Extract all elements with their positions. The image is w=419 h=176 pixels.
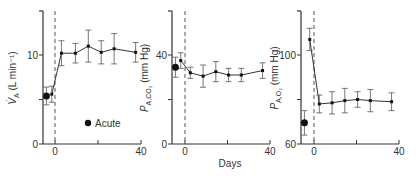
data-point — [74, 52, 77, 55]
y-tick-label: 0 — [32, 139, 38, 150]
data-point — [50, 93, 53, 96]
legend-marker-acute — [85, 120, 91, 126]
data-point — [343, 99, 346, 102]
data-point — [202, 75, 205, 78]
x-tick-label: 0 — [52, 146, 58, 157]
data-point — [100, 51, 103, 54]
acute-point — [172, 64, 179, 71]
data-point — [331, 101, 334, 104]
legend-label-acute: Acute — [95, 118, 121, 129]
y-axis-label: PA,CO₂ (mm Hg) — [139, 44, 152, 112]
data-point — [134, 51, 137, 54]
y-tick-label: 60 — [285, 139, 297, 150]
y-tick-label: 10 — [27, 50, 39, 61]
data-point — [189, 71, 192, 74]
data-point — [308, 38, 311, 41]
chronic-series-line — [181, 61, 263, 77]
y-tick-label: 0 — [161, 139, 167, 150]
data-point — [369, 99, 372, 102]
data-point — [240, 74, 243, 77]
data-point — [227, 74, 230, 77]
data-point — [113, 47, 116, 50]
acute-point — [301, 119, 308, 126]
data-point — [179, 59, 182, 62]
y-axis-label: V̇A (L min⁻¹) — [6, 51, 20, 104]
y-tick-label: 40 — [156, 50, 168, 61]
data-point — [60, 52, 63, 55]
x-tick-label: 40 — [393, 146, 405, 157]
data-point — [87, 45, 90, 48]
x-tick-label: 0 — [182, 146, 188, 157]
data-point — [261, 69, 264, 72]
x-tick-label: 0 — [311, 146, 317, 157]
chronic-series-line — [52, 46, 136, 94]
acute-point — [43, 92, 50, 99]
data-point — [356, 98, 359, 101]
panel-A: 010040V̇A (L min⁻¹)Acute — [6, 11, 147, 157]
panel-B: 040040PA,CO₂ (mm Hg) — [139, 11, 276, 157]
panel-C: 60100040PA,O₂ (mm Hg) — [269, 11, 405, 157]
x-tick-label: 40 — [264, 146, 276, 157]
x-tick-label: 40 — [135, 146, 147, 157]
data-point — [390, 100, 393, 103]
data-point — [318, 102, 321, 105]
chronic-series-line — [310, 39, 392, 104]
data-point — [214, 70, 217, 73]
y-tick-label: 100 — [279, 50, 296, 61]
figure: 010040V̇A (L min⁻¹)Acute040040PA,CO₂ (mm… — [0, 0, 419, 176]
x-axis-label-days: Days — [219, 158, 242, 169]
